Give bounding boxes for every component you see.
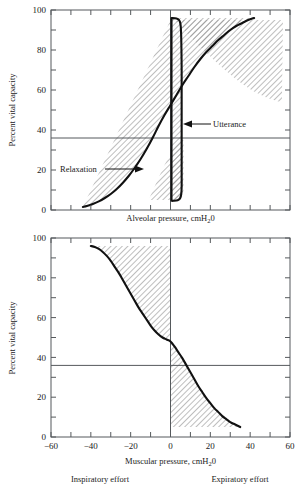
y-tick-label: 20 [37, 392, 47, 402]
x-tick-label: −60 [44, 441, 59, 451]
expiratory-effort-label: Expiratory effort [211, 474, 269, 484]
bottom-xaxis-label: Muscular pressure, cmH20 [125, 456, 216, 467]
respiratory-pressure-figure: 020406080100 Relaxation Utterance Alveol… [0, 0, 307, 492]
figure-svg: 020406080100 Relaxation Utterance Alveol… [0, 0, 307, 492]
inspiratory-effort-label: Inspiratory effort [71, 474, 130, 484]
svg-text:Muscular pressure, cmH20: Muscular pressure, cmH20 [125, 456, 216, 467]
y-tick-label: 80 [37, 273, 47, 283]
relaxation-label: Relaxation [60, 164, 98, 174]
x-tick-label: −20 [124, 441, 139, 451]
y-tick-label: 20 [37, 165, 47, 175]
y-tick-label: 40 [37, 125, 47, 135]
y-tick-label: 80 [37, 45, 47, 55]
svg-text:Alveolar pressure, cmH20: Alveolar pressure, cmH20 [126, 213, 214, 224]
y-tick-label: 60 [37, 85, 47, 95]
x-tick-label: 0 [168, 441, 173, 451]
y-tick-label: 40 [37, 353, 47, 363]
y-tick-label: 100 [33, 233, 47, 243]
x-tick-label: 40 [246, 441, 256, 451]
y-axis-title-bottom: Percent vital capacity [7, 301, 17, 375]
y-tick-label: 60 [37, 313, 47, 323]
top-xaxis-label: Alveolar pressure, cmH20 [126, 213, 214, 224]
y-tick-label: 100 [33, 5, 47, 15]
x-tick-label: 60 [286, 441, 296, 451]
x-tick-label: −40 [84, 441, 99, 451]
y-axis-title-top: Percent vital capacity [7, 73, 17, 147]
y-tick-label: 0 [42, 205, 47, 215]
utterance-label: Utterance [213, 119, 246, 129]
x-tick-label: 20 [206, 441, 216, 451]
